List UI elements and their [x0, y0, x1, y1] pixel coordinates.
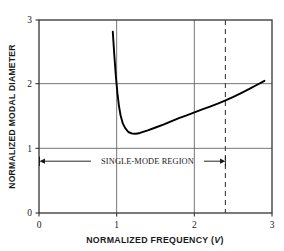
ytick-label-3: 3 — [27, 15, 32, 25]
single-mode-region-label: SINGLE-MODE REGION — [101, 157, 194, 166]
xtick-label-0: 0 — [37, 220, 42, 230]
xtick-label-3: 3 — [270, 220, 275, 230]
xtick-label-2: 2 — [192, 220, 197, 230]
xtick-label-1: 1 — [114, 220, 119, 230]
ytick-label-2: 2 — [27, 79, 32, 89]
x-axis-label: NORMALIZED FREQUENCY (V) — [86, 235, 224, 245]
x-axis-label-tail: ) — [221, 235, 224, 245]
y-axis-label: NORMALIZED MODAL DIAMETER — [7, 44, 17, 189]
normalized-modal-diameter-plot: SINGLE-MODE REGION 0 1 2 3 0 1 2 3 NORMA… — [0, 0, 284, 251]
ytick-label-1: 1 — [27, 144, 32, 154]
chart-figure: SINGLE-MODE REGION 0 1 2 3 0 1 2 3 NORMA… — [0, 0, 284, 251]
x-axis-label-main: NORMALIZED FREQUENCY ( — [86, 235, 214, 245]
ytick-label-0: 0 — [27, 208, 32, 218]
